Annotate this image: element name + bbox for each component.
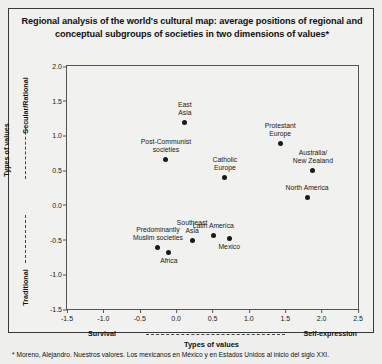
x-axis-tick: 1.0: [244, 309, 254, 322]
data-point-label: Mexico: [218, 243, 240, 251]
y-axis-title: Types of values: [2, 123, 11, 176]
data-point-label: Predominantly Muslim societies: [133, 226, 183, 242]
footnote-text: * Moreno, Alejandro. Nuestros valores. L…: [12, 351, 329, 358]
x-axis-tick: -0.5: [134, 309, 146, 322]
data-point[interactable]: [310, 168, 315, 173]
data-point[interactable]: [222, 175, 227, 180]
data-point-label: Catholic Europe: [213, 156, 238, 172]
data-point[interactable]: [166, 250, 171, 255]
y-axis-tick: -0.5: [50, 236, 67, 243]
y-axis-tick: 1.0: [52, 132, 67, 139]
data-point-label: Australia/ New Zealand: [293, 149, 333, 165]
x-axis-tick: 1.5: [280, 309, 290, 322]
data-point-label: Africa: [160, 257, 177, 265]
y-axis-tick: 1.5: [52, 97, 67, 104]
x-axis-title: Types of values: [66, 340, 357, 349]
x-axis-tick: -1.5: [61, 309, 73, 322]
x-axis-tick: -1.0: [97, 309, 109, 322]
data-point[interactable]: [182, 120, 187, 125]
y-axis-dash-upper: [25, 127, 26, 179]
x-axis-tick: 0.0: [171, 309, 181, 322]
y-axis-dash-lower: [25, 215, 26, 263]
y-axis-bottom-label: Traditional: [21, 269, 30, 305]
data-point[interactable]: [305, 195, 310, 200]
data-point[interactable]: [227, 236, 232, 241]
page-title: Regional analysis of the world's cultura…: [19, 15, 365, 40]
x-axis-right-label: Self-expression: [303, 329, 357, 338]
x-axis-dash: [146, 334, 285, 335]
data-point-label: Protestant Europe: [265, 122, 296, 138]
x-axis-tick: 2.0: [317, 309, 327, 322]
data-point[interactable]: [278, 141, 283, 146]
y-axis-direction-labels: Secular/Rational Traditional: [18, 65, 32, 308]
figure-root: Regional analysis of the world's cultura…: [0, 0, 382, 364]
data-point[interactable]: [190, 238, 195, 243]
scatter-plot-area: 2.01.51.00.50.0-0.5-1.0-1.5-1.5-1.0-0.50…: [66, 65, 359, 310]
y-axis-tick: 2.0: [52, 63, 67, 70]
x-axis-tick: 0.5: [208, 309, 218, 322]
x-axis-tick: 2.5: [353, 309, 363, 322]
data-point-label: Latin America: [193, 222, 234, 230]
data-point[interactable]: [155, 245, 160, 250]
data-point[interactable]: [211, 233, 216, 238]
data-point-label: Post-Communist societies: [141, 138, 191, 154]
y-axis-tick: 0.0: [52, 201, 67, 208]
y-axis-tick: -1.0: [50, 271, 67, 278]
y-axis-tick: 0.5: [52, 167, 67, 174]
data-point[interactable]: [163, 157, 168, 162]
data-point-label: East Asia: [178, 101, 192, 117]
footnote: * Moreno, Alejandro. Nuestros valores. L…: [12, 350, 374, 359]
data-point-label: North America: [286, 184, 329, 192]
y-axis-top-label: Secular/Rational: [21, 77, 30, 133]
x-axis-left-label: Survival: [88, 329, 116, 338]
